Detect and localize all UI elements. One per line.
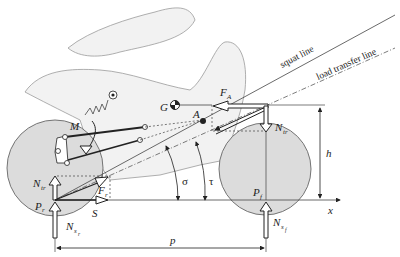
svg-text:s: s bbox=[74, 227, 77, 235]
p-dimension-label: p bbox=[169, 234, 176, 246]
svg-text:tr: tr bbox=[283, 128, 288, 136]
load-transfer-line-label: load transfer line bbox=[315, 47, 378, 82]
svg-text:r: r bbox=[105, 191, 108, 199]
svg-text:r: r bbox=[78, 231, 81, 237]
A-label: A bbox=[192, 108, 200, 120]
x-axis-label: x bbox=[327, 204, 333, 216]
svg-text:F: F bbox=[219, 86, 227, 98]
svg-text:N: N bbox=[274, 121, 283, 133]
motorcycle-squat-diagram: x squat line load transfer line M G bbox=[0, 0, 400, 257]
svg-text:σ: σ bbox=[182, 175, 188, 187]
svg-text:S: S bbox=[92, 207, 98, 219]
Pr-label: P bbox=[34, 200, 42, 212]
Pf-label: P bbox=[252, 186, 260, 198]
front-wheel bbox=[219, 123, 311, 215]
svg-text:s: s bbox=[281, 223, 284, 231]
point-A bbox=[200, 118, 206, 124]
svg-text:N: N bbox=[32, 177, 41, 189]
svg-text:N: N bbox=[272, 216, 281, 228]
squat-line-label: squat line bbox=[278, 44, 315, 70]
svg-text:f: f bbox=[285, 227, 288, 233]
svg-text:A: A bbox=[226, 93, 232, 101]
svg-text:F: F bbox=[97, 184, 105, 196]
h-dimension-label: h bbox=[326, 147, 332, 159]
moment-label: M bbox=[69, 120, 80, 132]
G-label: G bbox=[160, 101, 168, 113]
svg-text:τ: τ bbox=[209, 175, 214, 187]
svg-text:N: N bbox=[65, 220, 74, 232]
svg-text:r: r bbox=[42, 206, 45, 214]
svg-text:tr: tr bbox=[41, 184, 46, 192]
